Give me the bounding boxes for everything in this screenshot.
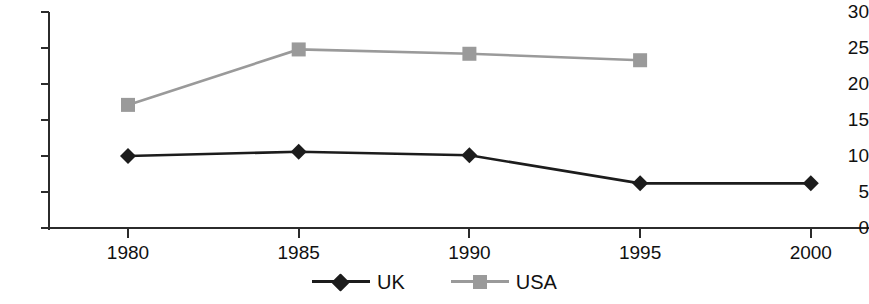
y-tick-label-30: 30 (835, 2, 869, 21)
data-point-uk-1985 (291, 144, 307, 160)
y-tick-5 (41, 191, 49, 193)
legend-item-uk: UK (312, 272, 405, 292)
y-tick-label-15: 15 (835, 110, 869, 129)
x-tick-1985 (298, 229, 300, 238)
x-axis-line (48, 227, 869, 229)
data-point-uk-1995 (632, 175, 648, 191)
data-point-uk-1980 (120, 148, 136, 164)
y-tick-25 (41, 47, 49, 49)
y-tick-30 (41, 11, 49, 13)
x-tick-2000 (810, 229, 812, 238)
plot-area: 051015202530 19801985199019952000 (0, 0, 869, 304)
y-axis-line (48, 12, 50, 230)
y-tick-0 (41, 227, 49, 229)
y-tick-label-20: 20 (835, 74, 869, 93)
y-tick-label-10: 10 (835, 146, 869, 165)
y-tick-10 (41, 155, 49, 157)
legend-swatch-uk (312, 274, 370, 290)
y-tick-label-0: 0 (835, 218, 869, 237)
legend-label-uk: UK (377, 272, 405, 292)
y-tick-20 (41, 83, 49, 85)
x-tick-label-1980: 1980 (83, 243, 173, 263)
data-point-usa-1985 (292, 42, 306, 56)
x-tick-1990 (468, 229, 470, 238)
x-tick-label-1995: 1995 (595, 243, 685, 263)
legend-label-usa: USA (516, 272, 557, 292)
chart-legend: UK USA (0, 272, 869, 292)
data-point-usa-1980 (121, 98, 135, 112)
legend-item-usa: USA (451, 272, 557, 292)
y-tick-label-25: 25 (835, 38, 869, 57)
line-chart: 051015202530 19801985199019952000 UK USA (0, 0, 869, 304)
square-marker-icon (473, 275, 487, 289)
diamond-marker-icon (331, 273, 349, 291)
y-tick-15 (41, 119, 49, 121)
x-tick-label-1990: 1990 (424, 243, 514, 263)
data-point-usa-1995 (633, 53, 647, 67)
x-tick-label-1985: 1985 (254, 243, 344, 263)
y-tick-label-5: 5 (835, 182, 869, 201)
x-tick-label-2000: 2000 (766, 243, 856, 263)
series-line-usa (128, 49, 640, 105)
data-point-uk-1990 (461, 147, 477, 163)
x-tick-1980 (127, 229, 129, 238)
series-line-uk (128, 152, 811, 184)
x-tick-1995 (639, 229, 641, 238)
legend-swatch-usa (451, 274, 509, 290)
data-point-uk-2000 (803, 175, 819, 191)
data-point-usa-1990 (462, 47, 476, 61)
